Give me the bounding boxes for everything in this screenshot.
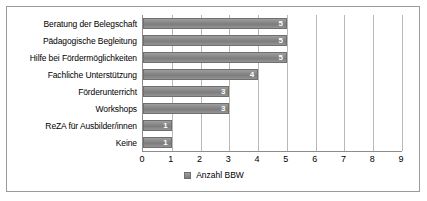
x-axis-tick-label: 6 <box>312 153 317 165</box>
bar[interactable]: 5 <box>143 18 287 29</box>
bar-value-label: 5 <box>278 37 282 45</box>
value-axis: 0123456789 <box>142 153 401 167</box>
x-axis-tick-label: 8 <box>370 153 375 165</box>
bar-value-label: 5 <box>278 54 282 62</box>
bar-row: 1 <box>143 120 402 131</box>
x-axis-tick-label: 0 <box>139 153 144 165</box>
bar[interactable]: 1 <box>143 137 172 148</box>
category-label: Workshops <box>7 104 141 114</box>
x-axis-tick-label: 9 <box>398 153 403 165</box>
category-label: Hilfe bei Fördermöglichkeiten <box>7 53 141 63</box>
category-label: Fachliche Unterstützung <box>7 70 141 80</box>
bar-row: 5 <box>143 35 402 46</box>
bar-value-label: 3 <box>221 105 225 113</box>
bar[interactable]: 5 <box>143 35 287 46</box>
bar-row: 3 <box>143 103 402 114</box>
chart-plot-wrapper: Beratung der Belegschaft Pädagogische Be… <box>7 7 421 193</box>
bar-value-label: 1 <box>163 122 167 130</box>
legend-label: Anzahl BBW <box>196 170 244 180</box>
x-axis-tick-label: 1 <box>168 153 173 165</box>
bar-value-label: 4 <box>250 71 254 79</box>
gridline <box>402 15 403 151</box>
bar-value-label: 3 <box>221 88 225 96</box>
plot-area: 5 5 5 4 <box>142 15 402 152</box>
category-label: ReZA für Ausbilder/innen <box>7 121 141 131</box>
bar-series: 5 5 5 4 <box>143 15 402 151</box>
bar[interactable]: 4 <box>143 69 258 80</box>
bar-row: 4 <box>143 69 402 80</box>
chart-legend: Anzahl BBW <box>7 170 421 180</box>
x-axis-tick-label: 5 <box>283 153 288 165</box>
category-label: Pädagogische Begleitung <box>7 36 141 46</box>
bar-value-label: 5 <box>278 20 282 28</box>
bar[interactable]: 1 <box>143 120 172 131</box>
bar-row: 5 <box>143 18 402 29</box>
bar-row: 5 <box>143 52 402 63</box>
x-axis-tick-label: 3 <box>226 153 231 165</box>
category-label: Keine <box>7 138 141 148</box>
x-axis-tick-label: 7 <box>341 153 346 165</box>
x-axis-tick-label: 4 <box>255 153 260 165</box>
bar-row: 3 <box>143 86 402 97</box>
bar[interactable]: 3 <box>143 103 229 114</box>
bar-value-label: 1 <box>163 139 167 147</box>
x-axis-tick-label: 2 <box>197 153 202 165</box>
bar[interactable]: 5 <box>143 52 287 63</box>
category-axis: Beratung der Belegschaft Pädagogische Be… <box>7 15 141 151</box>
bar-row: 1 <box>143 137 402 148</box>
bar[interactable]: 3 <box>143 86 229 97</box>
category-label: Förderunterricht <box>7 87 141 97</box>
category-label: Beratung der Belegschaft <box>7 19 141 29</box>
chart-frame: Beratung der Belegschaft Pädagogische Be… <box>6 6 420 192</box>
legend-swatch-icon <box>184 172 191 179</box>
